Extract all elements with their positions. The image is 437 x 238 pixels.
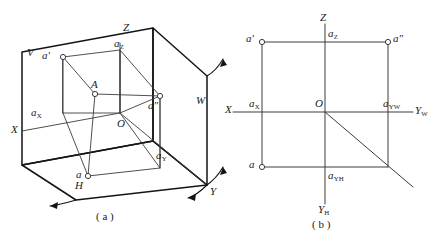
coord-ay-sub-a: Y xyxy=(162,155,167,162)
point-marker-a-front-b xyxy=(259,39,264,44)
coord-ayh-sub-b: YH xyxy=(334,175,344,182)
label-plane-h: H xyxy=(75,180,83,191)
coord-ayh-base-b: a xyxy=(328,169,334,181)
point-marker-a-front-a xyxy=(60,54,65,59)
panel-a-drawing xyxy=(0,0,437,238)
label-axis-yh-b: YH xyxy=(318,204,329,215)
label-axis-y-a: Y xyxy=(210,186,216,197)
coord-az-base-b: a xyxy=(328,27,334,39)
figure-root: V a′ Z aZ A a″ W X aX O aY a H Y ( a ) Z… xyxy=(0,0,437,238)
label-coord-ax-a: aX xyxy=(31,107,42,118)
coord-az-sub-b: Z xyxy=(334,33,338,40)
label-coord-ay-a: aY xyxy=(156,150,167,161)
label-a-front-a: a′ xyxy=(42,50,50,61)
axis-yw-sub-b: W xyxy=(421,110,428,117)
label-coord-ayw-b: aYW xyxy=(383,98,400,109)
label-origin-a: O xyxy=(117,118,125,129)
label-coord-ayh-b: aYH xyxy=(328,170,344,181)
label-a-front-b: a′ xyxy=(246,33,254,44)
coord-ayw-base-b: a xyxy=(383,97,389,109)
coord-ax-base-a: a xyxy=(31,106,37,118)
label-a-top-b: a xyxy=(249,159,255,170)
label-axis-x-b: X xyxy=(225,104,232,115)
coord-ay-base-a: a xyxy=(156,149,162,161)
caption-panel-b: ( b ) xyxy=(312,219,330,230)
label-point-A-a: A xyxy=(91,79,98,90)
label-plane-w: W xyxy=(196,95,205,106)
label-a-side-b: a″ xyxy=(393,33,403,44)
point-marker-a-top-a xyxy=(85,173,90,178)
coord-ax-sub-b: X xyxy=(255,103,260,110)
coord-ayw-sub-b: YW xyxy=(389,103,401,110)
coord-az-sub-a: Z xyxy=(120,43,124,50)
coord-ax-base-b: a xyxy=(249,97,255,109)
label-coord-az-b: aZ xyxy=(328,28,338,39)
point-marker-A-a xyxy=(92,91,97,96)
label-plane-v: V xyxy=(27,47,34,58)
label-a-side-a: a″ xyxy=(148,100,158,111)
point-marker-a-top-b xyxy=(259,164,264,169)
point-marker-a-side-a xyxy=(157,93,162,98)
point-marker-a-side-b xyxy=(385,39,390,44)
label-coord-ax-b: aX xyxy=(249,98,260,109)
coord-az-base-a: a xyxy=(114,37,120,49)
label-coord-az-a: aZ xyxy=(114,38,124,49)
label-origin-b: O xyxy=(315,98,323,109)
caption-panel-a: ( a ) xyxy=(96,211,114,222)
label-axis-x-a: X xyxy=(11,124,18,135)
label-axis-z-a: Z xyxy=(123,22,129,33)
label-axis-z-b: Z xyxy=(320,12,326,23)
coord-ax-sub-a: X xyxy=(37,112,42,119)
label-axis-yw-b: YW xyxy=(415,105,428,116)
axis-yh-sub-b: H xyxy=(324,209,329,216)
